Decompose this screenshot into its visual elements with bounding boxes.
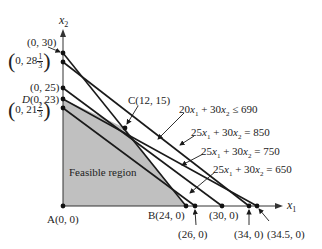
label-c: C(12, 15) (128, 95, 170, 106)
point-a (61, 204, 66, 209)
x-axis-arrow-icon (275, 203, 283, 209)
point-c (123, 126, 128, 131)
point-30x (220, 204, 225, 209)
label-0-21-2-3: (0, 2123) (8, 99, 51, 121)
x-axis-label: x1 (287, 199, 296, 214)
point-25 (61, 86, 66, 91)
label-26-0: (26, 0) (178, 229, 207, 240)
point-2167 (61, 106, 66, 111)
point-2833 (61, 60, 66, 65)
label-b: B(24, 0) (148, 210, 185, 221)
y-axis-label: x2 (59, 14, 68, 29)
label-34-5-0: (34.5, 0) (267, 229, 305, 240)
y-axis-arrow-icon (60, 29, 66, 37)
label-0-28-1-3: (0, 2813) (8, 50, 51, 72)
point-345 (255, 204, 260, 209)
point-30y (61, 51, 66, 56)
label-eq-750: 25x1 + 30x2 = 750 (201, 146, 280, 160)
point-d (61, 97, 66, 102)
label-30-0: (30, 0) (209, 210, 238, 221)
label-eq-690: 20x1 + 30x2 ≤ 690 (179, 104, 258, 118)
feasible-region (63, 99, 186, 206)
point-b (184, 204, 189, 209)
point-26 (193, 204, 198, 209)
label-eq-850: 25x1 + 30x2 = 850 (191, 127, 270, 141)
label-0-25: (0, 25) (30, 82, 59, 93)
label-0-30: (0, 30) (27, 37, 56, 48)
label-a: A(0, 0) (47, 214, 79, 225)
feasible-region-label: Feasible region (69, 167, 137, 178)
label-eq-650: 25x1 + 30x2 = 650 (213, 164, 292, 178)
label-34-0: (34, 0) (234, 229, 263, 240)
point-34 (247, 204, 252, 209)
